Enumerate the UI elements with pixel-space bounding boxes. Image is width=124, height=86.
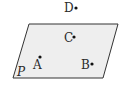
diagram-svg: P DCAB (0, 0, 124, 86)
point-dot-b (90, 62, 93, 65)
point-dot-a (38, 55, 41, 58)
plane-label: P (16, 65, 26, 79)
point-dot-c (72, 35, 75, 38)
point-label-a: A (32, 58, 42, 72)
point-label-d: D (64, 1, 74, 15)
point-label-c: C (64, 31, 73, 45)
point-dot-d (74, 6, 77, 9)
diagram-canvas: P DCAB (0, 0, 124, 86)
point-label-b: B (81, 58, 90, 72)
